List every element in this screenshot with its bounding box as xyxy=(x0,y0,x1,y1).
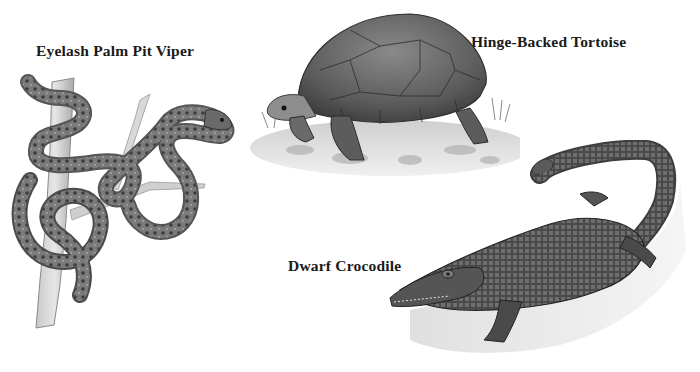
viper-illustration xyxy=(0,70,240,340)
crocodile-illustration xyxy=(380,140,700,372)
viper-label: Eyelash Palm Pit Viper xyxy=(36,42,194,60)
